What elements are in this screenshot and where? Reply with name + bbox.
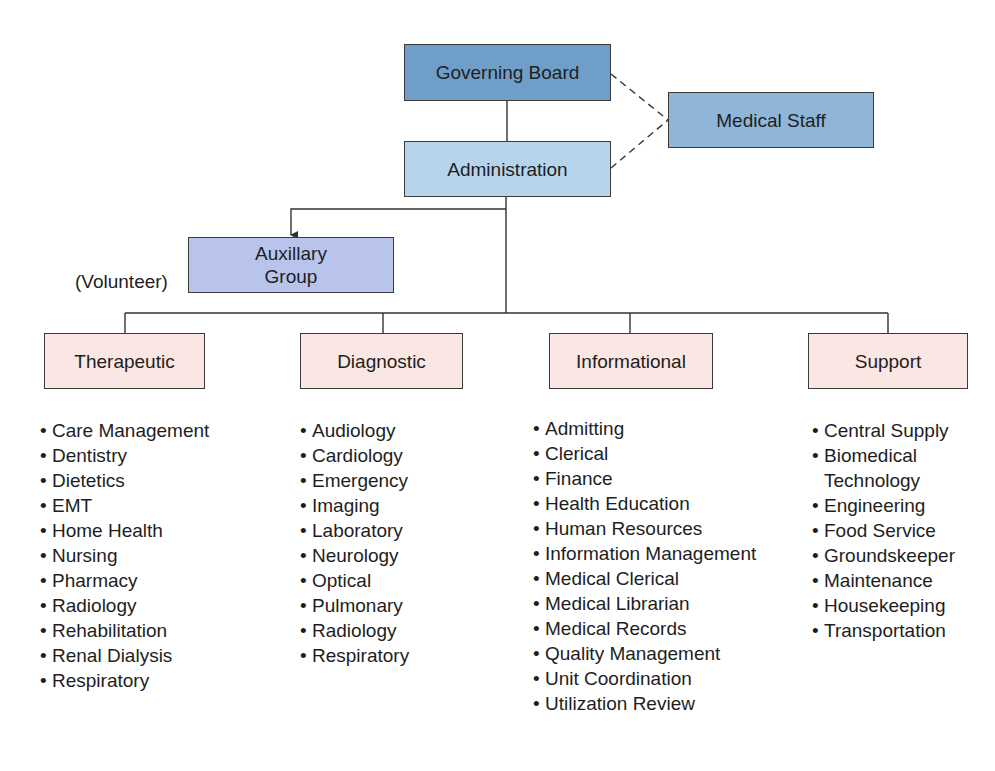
bullet-icon: • bbox=[533, 641, 540, 666]
bullet-icon: • bbox=[812, 568, 819, 593]
list-item: •Medical Librarian bbox=[533, 591, 756, 616]
list-item: •Radiology bbox=[40, 593, 209, 618]
bullet-icon: • bbox=[40, 618, 47, 643]
bullet-icon: • bbox=[533, 591, 540, 616]
governing-board-node: Governing Board bbox=[404, 44, 611, 101]
category-informational: Informational bbox=[549, 333, 713, 389]
category-diagnostic: Diagnostic bbox=[300, 333, 463, 389]
list-item: •Neurology bbox=[300, 543, 409, 568]
list-item: •Human Resources bbox=[533, 516, 756, 541]
medical-staff-node: Medical Staff bbox=[668, 92, 874, 148]
list-item: •Emergency bbox=[300, 468, 409, 493]
list-item: •Renal Dialysis bbox=[40, 643, 209, 668]
bullet-icon: • bbox=[533, 441, 540, 466]
bullet-icon: • bbox=[40, 443, 47, 468]
bullet-icon: • bbox=[300, 618, 307, 643]
list-item: •EMT bbox=[40, 493, 209, 518]
bullet-icon: • bbox=[40, 643, 47, 668]
list-item: •Cardiology bbox=[300, 443, 409, 468]
bullet-icon: • bbox=[40, 568, 47, 593]
list-item: •Nursing bbox=[40, 543, 209, 568]
bullet-icon: • bbox=[533, 541, 540, 566]
bullet-icon: • bbox=[533, 691, 540, 716]
bullet-icon: • bbox=[40, 593, 47, 618]
list-item: •Radiology bbox=[300, 618, 409, 643]
bullet-icon: • bbox=[812, 593, 819, 618]
bullet-icon: • bbox=[300, 568, 307, 593]
support-list: •Central Supply •BiomedicalTechnology •E… bbox=[812, 418, 955, 643]
list-item: •Food Service bbox=[812, 518, 955, 543]
bullet-icon: • bbox=[812, 543, 819, 568]
category-therapeutic: Therapeutic bbox=[44, 333, 205, 389]
bullet-icon: • bbox=[40, 418, 47, 443]
bullet-icon: • bbox=[812, 493, 819, 518]
medical-staff-label: Medical Staff bbox=[716, 109, 825, 132]
bullet-icon: • bbox=[40, 493, 47, 518]
list-item: •Engineering bbox=[812, 493, 955, 518]
list-item: •Clerical bbox=[533, 441, 756, 466]
informational-list: •Admitting •Clerical •Finance •Health Ed… bbox=[533, 416, 756, 716]
volunteer-note: (Volunteer) bbox=[75, 271, 168, 293]
bullet-icon: • bbox=[812, 418, 819, 443]
list-item: •Imaging bbox=[300, 493, 409, 518]
governing-board-label: Governing Board bbox=[436, 61, 580, 84]
list-item: •Transportation bbox=[812, 618, 955, 643]
list-item: •Admitting bbox=[533, 416, 756, 441]
category-informational-label: Informational bbox=[576, 350, 686, 373]
category-support: Support bbox=[808, 333, 968, 389]
list-item: •Respiratory bbox=[300, 643, 409, 668]
therapeutic-list: •Care Management •Dentistry •Dietetics •… bbox=[40, 418, 209, 693]
bullet-icon: • bbox=[812, 618, 819, 643]
list-item: •Rehabilitation bbox=[40, 618, 209, 643]
auxillary-group-label-line2: Group bbox=[265, 265, 318, 288]
diagnostic-list: •Audiology •Cardiology •Emergency •Imagi… bbox=[300, 418, 409, 668]
list-item: •Home Health bbox=[40, 518, 209, 543]
bullet-icon: • bbox=[533, 666, 540, 691]
bullet-icon: • bbox=[40, 468, 47, 493]
list-item: •Finance bbox=[533, 466, 756, 491]
list-item: •Central Supply bbox=[812, 418, 955, 443]
bullet-icon: • bbox=[300, 593, 307, 618]
list-item: •Optical bbox=[300, 568, 409, 593]
bullet-icon: • bbox=[300, 493, 307, 518]
list-item: •BiomedicalTechnology bbox=[812, 443, 955, 493]
administration-label: Administration bbox=[447, 158, 567, 181]
list-item: •Dietetics bbox=[40, 468, 209, 493]
bullet-icon: • bbox=[300, 468, 307, 493]
bullet-icon: • bbox=[533, 516, 540, 541]
category-therapeutic-label: Therapeutic bbox=[74, 350, 174, 373]
auxillary-group-node: Auxillary Group bbox=[188, 237, 394, 293]
bullet-icon: • bbox=[533, 466, 540, 491]
list-item: •Quality Management bbox=[533, 641, 756, 666]
list-item: •Utilization Review bbox=[533, 691, 756, 716]
arrow-admin-auxillary bbox=[291, 209, 506, 235]
list-item: •Information Management bbox=[533, 541, 756, 566]
category-diagnostic-label: Diagnostic bbox=[337, 350, 426, 373]
list-item: •Care Management bbox=[40, 418, 209, 443]
category-support-label: Support bbox=[855, 350, 922, 373]
list-item: •Audiology bbox=[300, 418, 409, 443]
bullet-icon: • bbox=[300, 418, 307, 443]
list-item: •Health Education bbox=[533, 491, 756, 516]
auxillary-group-label-line1: Auxillary bbox=[255, 242, 327, 265]
list-item: •Dentistry bbox=[40, 443, 209, 468]
list-item: •Maintenance bbox=[812, 568, 955, 593]
bullet-icon: • bbox=[40, 518, 47, 543]
list-item: •Pulmonary bbox=[300, 593, 409, 618]
list-item: •Respiratory bbox=[40, 668, 209, 693]
list-item: •Medical Records bbox=[533, 616, 756, 641]
bullet-icon: • bbox=[533, 416, 540, 441]
bullet-icon: • bbox=[533, 616, 540, 641]
list-item: •Laboratory bbox=[300, 518, 409, 543]
bullet-icon: • bbox=[533, 566, 540, 591]
list-item: •Medical Clerical bbox=[533, 566, 756, 591]
dashed-admin-medstaff bbox=[611, 120, 668, 168]
list-item: •Groundskeeper bbox=[812, 543, 955, 568]
bullet-icon: • bbox=[40, 543, 47, 568]
bullet-icon: • bbox=[300, 518, 307, 543]
list-item: •Pharmacy bbox=[40, 568, 209, 593]
bullet-icon: • bbox=[812, 443, 819, 468]
bullet-icon: • bbox=[533, 491, 540, 516]
bullet-icon: • bbox=[40, 668, 47, 693]
dashed-board-medstaff bbox=[611, 74, 668, 120]
